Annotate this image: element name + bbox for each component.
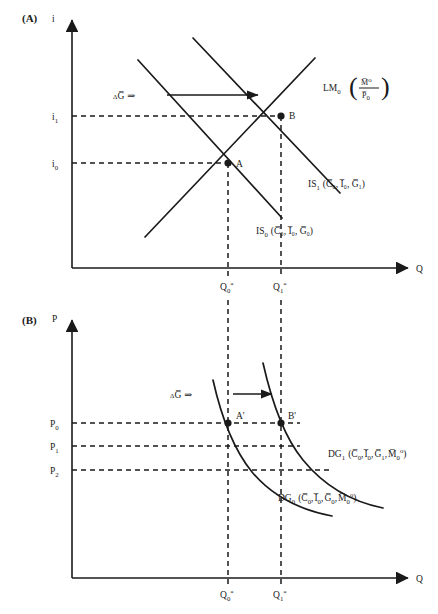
panel-a-point-a: [224, 159, 231, 166]
panel-b: (B) P Q A' B' P0 P1: [22, 300, 423, 602]
curve-lm0-paren-open: (: [349, 72, 358, 101]
svg-text:Q1*: Q1*: [273, 281, 287, 294]
curve-is1-sub: 1: [316, 184, 319, 191]
panel-b-shift-arrow-glyph: ⇒: [184, 390, 192, 400]
panel-a-y-tick-i0: i0: [52, 159, 59, 171]
panel-b-x-tick-q1: Q1*: [273, 589, 287, 602]
curve-is0-base: IS: [256, 226, 264, 236]
panel-b-y-tick-p2-sub: 2: [55, 471, 59, 478]
svg-text:i0: i0: [52, 159, 59, 171]
curve-is1-base: IS: [308, 179, 316, 189]
panel-b-y-tick-p0-sub: 0: [55, 424, 59, 431]
panel-b-point-a-prime: [224, 419, 231, 426]
svg-text:LM0: LM0: [323, 83, 341, 95]
panel-a-x-tick-q0-sup: *: [230, 281, 234, 288]
panel-b-x-tick-q1-sub: 1: [280, 595, 283, 602]
panel-a-tag: (A): [22, 12, 38, 25]
curve-lm0-sub: 0: [337, 88, 341, 95]
curve-dg0-label: DG0(C̅0,I̅0,G̅0,M̅0o): [278, 491, 356, 505]
curve-dg0-base: DG: [278, 493, 292, 503]
svg-text:ΔG̅⇒: ΔG̅⇒: [170, 390, 192, 400]
panel-a-x-tick-q0: Q0*: [220, 281, 234, 294]
panel-b-y-tick-p0: P0: [50, 419, 59, 431]
panel-b-y-tick-p2: P2: [50, 466, 59, 478]
panel-a-shift-annotation: ΔG̅⇒: [113, 91, 258, 101]
panel-b-tag: (B): [22, 314, 37, 327]
curve-is0: [138, 60, 282, 218]
panel-a-point-b: [277, 112, 284, 119]
svg-text:ΔG̅⇒: ΔG̅⇒: [113, 91, 135, 101]
curve-lm0: [145, 58, 315, 237]
panel-a-x-tick-q1-sub: 1: [280, 287, 283, 294]
panel-b-shift-var: G̅: [174, 390, 181, 400]
panel-b-x-tick-q0: Q0*: [220, 589, 234, 602]
curve-is0-args: (C̅₀, I̅₀, G̅₀): [271, 226, 313, 237]
svg-text:P0: P0: [50, 419, 59, 431]
panel-a-y-axis-label: i: [52, 14, 55, 24]
svg-text:P1: P1: [50, 442, 59, 454]
curve-is0-sub: 0: [264, 231, 268, 238]
curve-dg1-base: DG: [328, 449, 342, 459]
curve-dg1-sub: 1: [342, 454, 345, 461]
panel-b-y-tick-p1: P1: [50, 442, 59, 454]
curve-lm0-numerator-sup: o: [368, 76, 372, 83]
curve-is1-label: IS1(C̅₀, I̅₀, G̅₁): [308, 179, 365, 191]
economics-figure: (A) i Q A B i1 i0: [0, 0, 438, 614]
panel-b-x-tick-q0-sub: 0: [227, 595, 231, 602]
curve-dg1-arg3-sub: 0: [397, 454, 401, 461]
panel-a-shift-var: G̅: [117, 91, 124, 101]
panel-a-x-tick-q1-sup: *: [283, 281, 287, 288]
curve-lm0-paren-close: ): [381, 72, 390, 101]
svg-text:Q0*: Q0*: [220, 589, 234, 602]
svg-text:DG1(C̅0,I̅0,G̅1,M̅0o): DG1(C̅0,I̅0,G̅1,M̅0o): [328, 447, 406, 461]
curve-lm0-denominator: P̅0: [361, 91, 370, 101]
svg-text:i1: i1: [52, 112, 58, 124]
panel-b-x-axis-label: Q: [416, 574, 423, 584]
svg-text:P2: P2: [50, 466, 59, 478]
panel-a-x-tick-q0-sub: 0: [227, 287, 231, 294]
curve-lm0-denominator-sub: 0: [366, 94, 370, 101]
panel-a-point-a-label: A: [236, 159, 243, 169]
panel-b-shift-annotation: ΔG̅⇒: [170, 390, 272, 400]
curve-dg0-arg3-sub: 0: [347, 498, 351, 505]
curve-is0-label: IS0(C̅₀, I̅₀, G̅₀): [256, 226, 313, 238]
panel-a-x-axis-label: Q: [416, 264, 423, 274]
panel-a-shift-arrow-glyph: ⇒: [127, 91, 135, 101]
svg-text:IS1(C̅₀, I̅₀, G̅₁): IS1(C̅₀, I̅₀, G̅₁): [308, 179, 365, 191]
panel-a-x-tick-q1: Q1*: [273, 281, 287, 294]
curve-is1: [193, 38, 340, 193]
panel-b-point-a-prime-label: A': [236, 411, 245, 421]
panel-b-point-b-prime: [277, 419, 284, 426]
svg-text:DG0(C̅0,I̅0,G̅0,M̅0o): DG0(C̅0,I̅0,G̅0,M̅0o): [278, 491, 356, 505]
panel-a-y-tick-i0-sub: 0: [55, 164, 59, 171]
panel-b-x-tick-q1-sup: *: [283, 589, 287, 596]
curve-lm0-numerator-base: M̅: [361, 78, 368, 87]
svg-text:Q1*: Q1*: [273, 589, 287, 602]
curve-is1-args: (C̅₀, I̅₀, G̅₁): [323, 179, 365, 190]
panel-b-x-tick-q0-sup: *: [230, 589, 234, 596]
panel-b-y-axis-label: P: [52, 314, 57, 324]
curve-lm0-numerator: M̅o: [361, 76, 372, 87]
curve-dg1-label: DG1(C̅0,I̅0,G̅1,M̅0o): [328, 447, 406, 461]
panel-a-y-tick-i1: i1: [52, 112, 58, 124]
panel-a-y-tick-i1-sub: 1: [55, 117, 58, 124]
panel-b-y-tick-p1-sub: 1: [55, 447, 58, 454]
panel-a: (A) i Q A B i1 i0: [22, 12, 423, 294]
svg-text:IS0(C̅₀, I̅₀, G̅₀): IS0(C̅₀, I̅₀, G̅₀): [256, 226, 313, 238]
curve-lm0-label: LM0 ( M̅o P̅0 ): [323, 72, 390, 101]
panel-b-point-b-prime-label: B': [288, 411, 296, 421]
svg-text:Q0*: Q0*: [220, 281, 234, 294]
curve-lm0-base: LM: [323, 83, 338, 93]
curve-dg0-sub: 0: [292, 498, 296, 505]
panel-a-point-b-label: B: [289, 111, 295, 121]
